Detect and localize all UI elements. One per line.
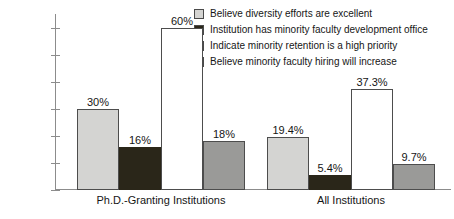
bar-value-label: 30% xyxy=(87,96,109,108)
bar: 60% xyxy=(161,28,203,190)
y-axis-tick xyxy=(51,109,60,110)
bar: 30% xyxy=(77,109,119,190)
bar: 5.4% xyxy=(309,175,351,190)
bar-chart: Believe diversity efforts are excellent … xyxy=(0,0,454,219)
bar: 37.3% xyxy=(351,89,393,190)
bar-value-label: 5.4% xyxy=(317,162,342,174)
x-axis-category-label: Ph.D.-Granting Institutions xyxy=(61,194,261,206)
y-axis-tick xyxy=(51,55,60,56)
y-axis-tick xyxy=(51,82,60,83)
y-axis-tick xyxy=(51,28,60,29)
bar: 9.7% xyxy=(393,164,435,190)
x-axis-category-label: All Institutions xyxy=(251,194,451,206)
plot-area: 0%10%20%30%40%50%60% 30%16%60%18%19.4%5.… xyxy=(55,14,451,190)
bar: 16% xyxy=(119,147,161,190)
y-axis-tick xyxy=(51,136,60,137)
bar-value-label: 9.7% xyxy=(401,151,426,163)
y-axis-tick xyxy=(51,163,60,164)
bar-value-label: 16% xyxy=(129,134,151,146)
bar-value-label: 19.4% xyxy=(272,124,303,136)
bar-value-label: 60% xyxy=(171,15,193,27)
y-axis-tick xyxy=(51,190,60,191)
bar: 19.4% xyxy=(267,137,309,190)
bar-value-label: 18% xyxy=(213,128,235,140)
bar: 18% xyxy=(203,141,245,190)
bar-value-label: 37.3% xyxy=(356,76,387,88)
